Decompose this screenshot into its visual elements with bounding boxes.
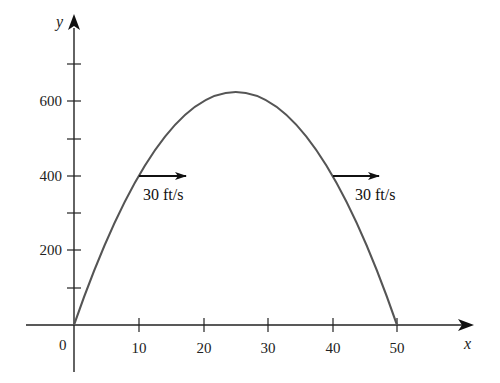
velocity-arrow-right: 30 ft/s xyxy=(333,176,395,203)
y-axis-label: y xyxy=(54,13,64,31)
velocity-label-left: 30 ft/s xyxy=(143,186,183,203)
velocity-label-right: 30 ft/s xyxy=(355,186,395,203)
x-tick-label-20: 20 xyxy=(197,340,212,356)
x-tick-label-40: 40 xyxy=(326,340,341,356)
y-tick-label-400: 400 xyxy=(40,168,63,184)
y-axis: 200 400 600 y xyxy=(40,13,82,372)
x-tick-label-10: 10 xyxy=(132,340,147,356)
trajectory-curve xyxy=(74,92,397,325)
x-tick-label-30: 30 xyxy=(261,340,276,356)
trajectory-chart: 0 10 20 30 40 50 x 200 400 600 y 30 ft/s… xyxy=(0,0,500,383)
y-axis-arrow-icon xyxy=(68,14,80,30)
x-tick-label-50: 50 xyxy=(390,340,405,356)
x-tick-label-0: 0 xyxy=(59,337,67,353)
y-tick-label-600: 600 xyxy=(40,93,63,109)
velocity-arrow-left: 30 ft/s xyxy=(139,176,186,203)
x-axis: 0 10 20 30 40 50 x xyxy=(26,318,474,356)
x-axis-label: x xyxy=(463,335,471,352)
y-tick-label-200: 200 xyxy=(40,242,63,258)
